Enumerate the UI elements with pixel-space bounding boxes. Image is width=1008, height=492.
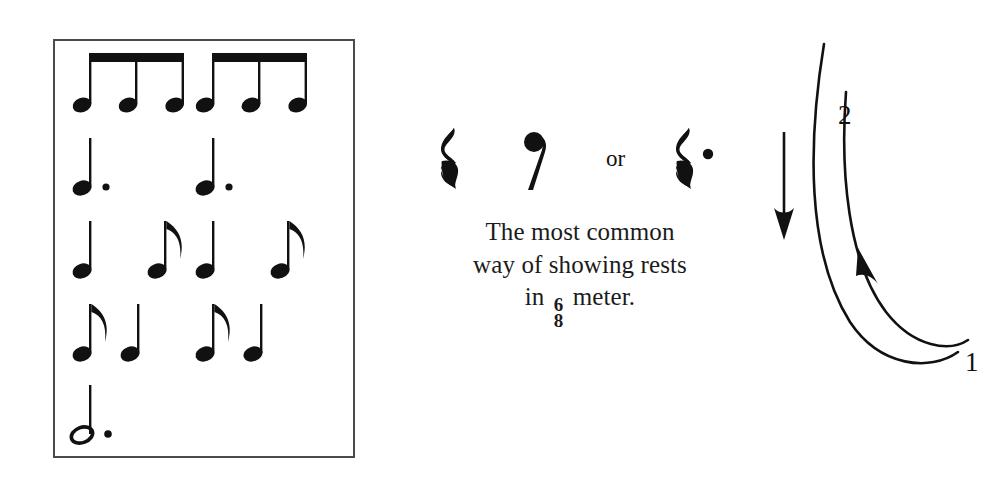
time-signature: 6 8 (554, 297, 564, 330)
conducting-stroke-inner (844, 92, 968, 346)
beat-label-2: 2 (838, 100, 852, 131)
caption-line-3: in 6 8 meter. (420, 281, 740, 330)
rest-symbols-row: or (420, 120, 740, 212)
notehead-open (69, 424, 95, 446)
downward-arrow (774, 132, 794, 240)
rhythm-patterns-box (53, 39, 355, 458)
quarter-rest-glyph (441, 128, 458, 189)
conducting-stroke-outer (814, 44, 958, 363)
rhythm-notation (55, 41, 353, 456)
augmentation-dot (225, 183, 232, 190)
caption-line-3-after: meter. (573, 283, 635, 310)
dotted-quarter-rest-glyph (676, 128, 713, 189)
augmentation-dot (102, 183, 109, 190)
flag (91, 304, 106, 342)
or-conjunction: or (606, 146, 625, 172)
figure-canvas: or The most common way of showing rests … (0, 0, 1008, 492)
rest-glyphs (420, 120, 740, 212)
caption-line-1: The most common (420, 216, 740, 249)
augmentation-dot (703, 149, 713, 159)
eighth-rest-glyph (524, 132, 546, 190)
beat-label-1: 1 (965, 347, 979, 378)
conducting-pattern-diagram: 2 1 (762, 22, 1008, 412)
flag (289, 221, 304, 259)
caption-line-2: way of showing rests (420, 249, 740, 282)
caption-line-3-before: in (525, 283, 545, 310)
flag (214, 304, 229, 342)
flag (166, 221, 181, 259)
rests-explanation-panel: or The most common way of showing rests … (420, 120, 740, 330)
time-signature-denominator: 8 (554, 313, 564, 330)
augmentation-dot (104, 430, 112, 438)
rests-caption: The most common way of showing rests in … (420, 216, 740, 330)
